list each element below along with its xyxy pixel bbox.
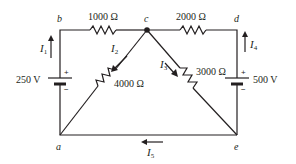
source-right-minus: − [241, 85, 246, 94]
resistor-1000-icon [90, 26, 147, 34]
arrow-i4-icon [242, 31, 248, 52]
resistor-label-1000: 1000 Ω [88, 11, 118, 22]
current-label-i4: I4 [249, 38, 258, 52]
source-left-plus: + [64, 68, 69, 77]
current-label-i2: I2 [110, 42, 119, 56]
source-left-minus: − [64, 85, 69, 94]
arrow-i5-icon [141, 139, 163, 145]
resistor-label-3000: 3000 Ω [196, 66, 226, 77]
source-right-plus: + [241, 68, 246, 77]
current-label-i5: I5 [146, 146, 155, 160]
circuit-diagram: b c d a e 1000 Ω 2000 Ω 4000 Ω 3000 Ω 25… [0, 0, 296, 164]
node-label-b: b [57, 13, 62, 24]
current-label-i1: I1 [39, 42, 48, 56]
arrow-i2-icon [111, 56, 127, 72]
node-label-d: d [234, 13, 240, 24]
resistor-label-2000: 2000 Ω [176, 11, 206, 22]
arrow-i1-icon [48, 35, 54, 58]
current-label-i3: I3 [159, 58, 168, 72]
source-label-250v: 250 V [16, 74, 41, 85]
source-label-500v: 500 V [253, 74, 278, 85]
node-label-c: c [144, 13, 149, 24]
node-label-e: e [234, 141, 239, 152]
node-label-a: a [56, 141, 61, 152]
resistor-label-4000: 4000 Ω [114, 78, 144, 89]
resistor-3000-icon [147, 30, 237, 135]
